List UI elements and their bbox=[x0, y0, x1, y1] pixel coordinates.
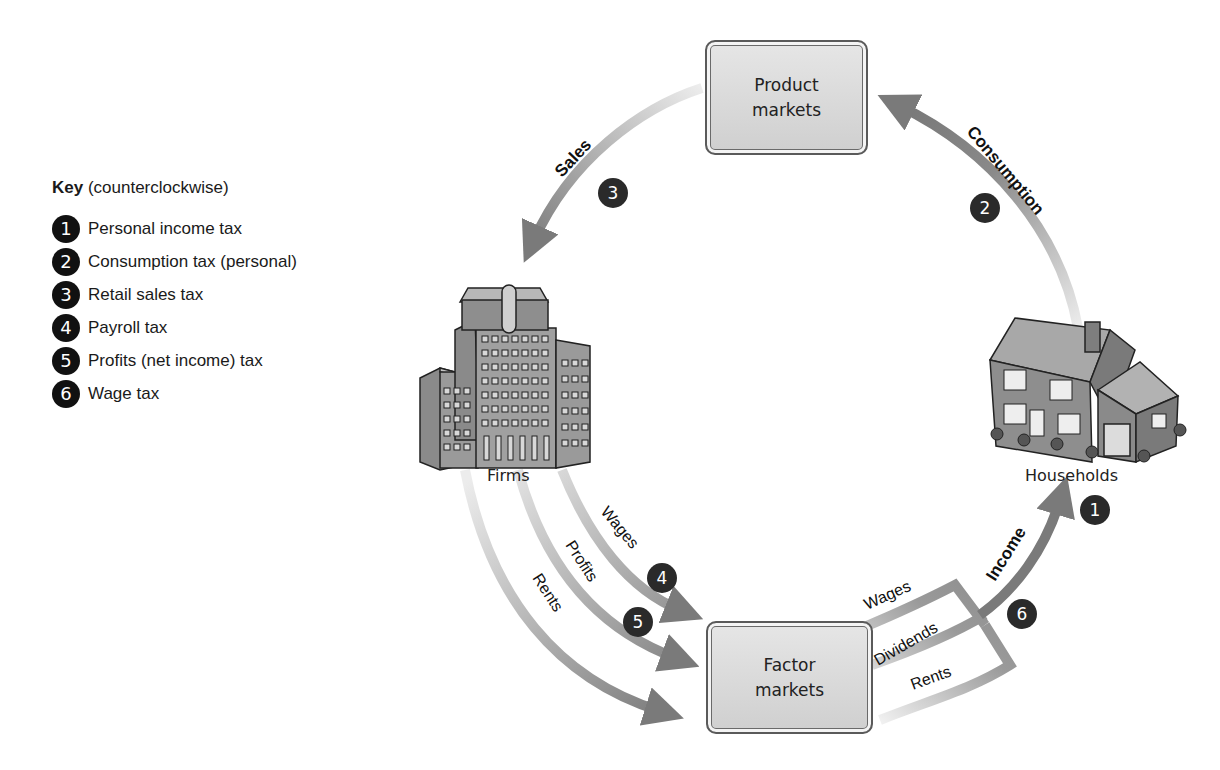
badge-3-icon: 3 bbox=[598, 178, 628, 208]
svg-text:5: 5 bbox=[633, 612, 644, 632]
circular-flow-diagram: Key (counterclockwise) 1Personal income … bbox=[0, 0, 1220, 770]
factor-markets-box: Factormarkets bbox=[706, 621, 873, 734]
rents-arrow bbox=[465, 470, 660, 711]
households-label: Households bbox=[1025, 466, 1118, 485]
firm-rents-label: Rents bbox=[529, 570, 566, 614]
badge-1-icon: 1 bbox=[1080, 495, 1110, 525]
building-icon bbox=[420, 285, 590, 470]
badge-6-icon: 6 bbox=[1007, 599, 1037, 629]
svg-text:6: 6 bbox=[1017, 604, 1028, 624]
product-markets-box: Productmarkets bbox=[705, 40, 868, 155]
svg-text:1: 1 bbox=[1090, 500, 1101, 520]
flow-arrows: 1 2 3 4 5 6 Sales Consumption Income Wag… bbox=[0, 0, 1220, 770]
badge-5-icon: 5 bbox=[623, 607, 653, 637]
badge-4-icon: 4 bbox=[647, 563, 677, 593]
hh-rents-label: Rents bbox=[908, 663, 953, 693]
badge-2-icon: 2 bbox=[970, 193, 1000, 223]
house-icon bbox=[990, 318, 1186, 462]
svg-text:2: 2 bbox=[980, 198, 991, 218]
firms-label: Firms bbox=[487, 466, 530, 485]
svg-text:3: 3 bbox=[608, 183, 619, 203]
svg-text:4: 4 bbox=[657, 568, 668, 588]
